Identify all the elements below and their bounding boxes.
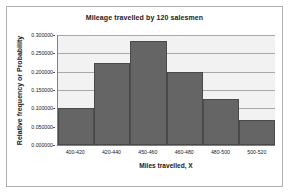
- x-axis-tick-label: 500-520: [239, 149, 275, 155]
- y-axis-tick-label: 0.100000: [23, 105, 53, 111]
- y-axis-tick-mark: [53, 108, 55, 109]
- y-axis-tick-mark: [53, 72, 55, 73]
- x-axis-tick-label: 460-480: [166, 149, 202, 155]
- y-axis-tick-label: 0.000000: [23, 142, 53, 148]
- y-axis-tick-mark: [53, 53, 55, 54]
- bar-series: [58, 35, 275, 145]
- y-axis-tick-label: 0.250000: [23, 50, 53, 56]
- bar: [203, 99, 239, 145]
- y-axis-tick-mark: [53, 127, 55, 128]
- bar: [239, 120, 275, 145]
- x-axis-tick-label: 420-440: [93, 149, 129, 155]
- y-axis-tick-label: 0.150000: [23, 87, 53, 93]
- x-axis-tick-label: 400-420: [57, 149, 93, 155]
- y-axis-tick-mark: [53, 35, 55, 36]
- bar: [94, 63, 130, 146]
- x-axis-tick-labels: 400-420420-440450-460460-480480-500500-5…: [57, 149, 275, 155]
- y-axis-tick-mark: [53, 90, 55, 91]
- x-axis-title: Miles travelled, X: [57, 162, 275, 169]
- y-axis-tick-label: 0.050000: [23, 124, 53, 130]
- y-axis-title-label: Relative frequency or Probability: [16, 35, 23, 144]
- y-axis-tick-label: 0.200000: [23, 69, 53, 75]
- x-axis-tick-label: 450-460: [130, 149, 166, 155]
- plot-area: [57, 35, 275, 146]
- bar: [130, 41, 166, 146]
- bar: [58, 108, 94, 145]
- bar: [167, 72, 203, 145]
- y-axis-tick-label: 0.300000: [23, 32, 53, 38]
- y-axis-tick-labels: 0.0000000.0500000.1000000.1500000.200000…: [25, 35, 55, 145]
- y-axis-tick-mark: [53, 145, 55, 146]
- x-axis-tick-label: 480-500: [202, 149, 238, 155]
- chart-title: Mileage travelled by 120 salesmen: [7, 14, 282, 21]
- chart-frame: Mileage travelled by 120 salesmen Relati…: [6, 6, 283, 187]
